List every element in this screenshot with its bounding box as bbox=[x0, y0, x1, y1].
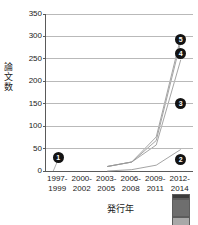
y-axis-title-char-3: 数 bbox=[2, 82, 14, 92]
y-axis-tick-label: 350 bbox=[16, 10, 42, 18]
gridline bbox=[46, 14, 193, 15]
y-axis-tick bbox=[43, 81, 46, 82]
y-axis-tick bbox=[43, 36, 46, 37]
plot-area: 12345 bbox=[45, 14, 193, 172]
y-axis-tick bbox=[43, 126, 46, 127]
y-axis-title-char-1: 論 bbox=[2, 62, 14, 72]
gridline bbox=[46, 148, 193, 149]
x-axis-tick-label-line: 2014 bbox=[166, 184, 194, 194]
trend-line bbox=[107, 60, 181, 167]
x-axis-tick-label: 2012-2014 bbox=[166, 174, 194, 194]
y-axis-tick bbox=[43, 103, 46, 104]
y-axis-tick-label: 150 bbox=[16, 100, 42, 108]
x-axis-tick-labels: 1997-19992000-20022003-20052006-20082009… bbox=[45, 174, 195, 198]
data-callout-badge: 1 bbox=[53, 152, 64, 163]
y-axis-title-char-2: 文 bbox=[2, 72, 14, 82]
gridline bbox=[46, 36, 193, 37]
y-axis-tick-label: 300 bbox=[16, 32, 42, 40]
y-axis-tick-label: 100 bbox=[16, 122, 42, 130]
x-axis-title: 発行年 bbox=[45, 202, 195, 215]
gridline bbox=[46, 81, 193, 82]
gridline bbox=[46, 103, 193, 104]
y-axis-tick bbox=[43, 148, 46, 149]
y-axis-tick bbox=[43, 58, 46, 59]
gridline bbox=[46, 58, 193, 59]
publication-count-chart: 論 文 数 050100150200250300350 12345 1997-1… bbox=[0, 0, 198, 225]
gridline bbox=[46, 126, 193, 127]
y-axis-tick bbox=[43, 14, 46, 15]
y-axis-tick-labels: 050100150200250300350 bbox=[14, 0, 42, 225]
x-axis-tick-label-line: 2012- bbox=[166, 174, 194, 184]
y-axis-tick-label: 50 bbox=[16, 145, 42, 153]
y-axis-tick-label: 0 bbox=[16, 167, 42, 175]
y-axis-tick bbox=[43, 171, 46, 172]
y-axis-tick-label: 250 bbox=[16, 55, 42, 63]
trend-line bbox=[107, 149, 181, 171]
y-axis-title: 論 文 数 bbox=[2, 62, 14, 92]
bar-segment[interactable] bbox=[172, 217, 190, 225]
y-axis-tick-label: 200 bbox=[16, 77, 42, 85]
